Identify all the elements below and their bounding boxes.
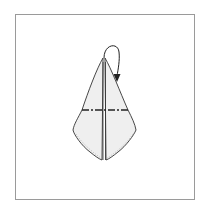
origami-diagram [0, 0, 204, 213]
paper-left-flap [73, 58, 103, 160]
paper-right-flap [105, 58, 136, 160]
